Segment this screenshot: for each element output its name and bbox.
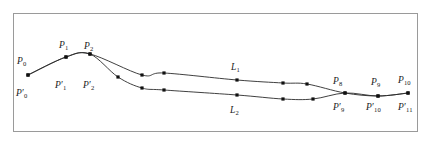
label-p1-prime: P′1: [55, 81, 66, 91]
label-p2: P2: [84, 42, 93, 52]
label-p1: P1: [59, 41, 68, 51]
label-p0: P0: [17, 57, 26, 67]
label-p0-prime: P′0: [16, 89, 27, 99]
label-p8: P8: [333, 77, 342, 87]
label-p11-prime: P′11: [398, 103, 412, 113]
label-l1: L1: [231, 63, 240, 73]
label-p9: P9: [371, 78, 380, 88]
figure-container: P0P1P2L1P8P9P10P′0P′1P′2L2P′9P′10P′11: [0, 0, 435, 150]
label-p9-prime: P′9: [333, 103, 344, 113]
figure-frame-border: [13, 13, 418, 132]
label-p10-prime: P′10: [366, 103, 380, 113]
label-p2-prime: P′2: [83, 81, 94, 91]
label-p10: P10: [398, 76, 410, 86]
label-l2: L2: [230, 106, 239, 116]
